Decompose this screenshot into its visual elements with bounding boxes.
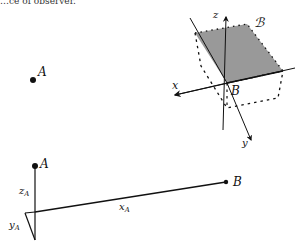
diagram-canvas — [0, 0, 307, 248]
point-a-dot — [30, 77, 36, 83]
label-y-component: yA — [9, 220, 20, 232]
body-frame-diagram — [175, 17, 295, 140]
label-bottom-b: B — [233, 176, 242, 188]
label-y-axis: y — [242, 138, 248, 148]
label-point-a: A — [38, 66, 47, 78]
label-x-axis: x — [172, 80, 178, 91]
label-body-b: ℬ — [254, 16, 264, 29]
label-origin-b: B — [231, 85, 240, 97]
label-x-component: xA — [119, 202, 130, 214]
label-bottom-a: A — [40, 158, 49, 170]
label-z-component: zA — [19, 186, 29, 198]
label-z-axis: z — [213, 10, 218, 20]
